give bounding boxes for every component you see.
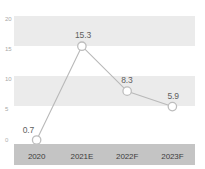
data-label-2023f: 5.9 bbox=[167, 92, 179, 101]
data-point-marker bbox=[32, 136, 40, 144]
x-axis-tick-2023f: 2023F bbox=[150, 152, 195, 161]
data-point-marker bbox=[78, 42, 86, 50]
x-axis-tick-2022f: 2022F bbox=[105, 152, 150, 161]
x-axis-tick-2020: 2020 bbox=[14, 152, 59, 161]
plot-area: 20 15 10 5 0 0.7 15.3 8.3 5.9 2020 2021E… bbox=[0, 0, 205, 169]
data-label-2022f: 8.3 bbox=[121, 76, 133, 85]
series-line bbox=[37, 46, 173, 140]
data-point-marker bbox=[168, 102, 176, 110]
line-chart: 20 15 10 5 0 0.7 15.3 8.3 5.9 2020 2021E… bbox=[0, 0, 205, 169]
x-axis-tick-2021e: 2021E bbox=[59, 152, 104, 161]
data-label-2020: 0.7 bbox=[23, 126, 35, 135]
series-markers bbox=[32, 42, 176, 144]
data-label-2021e: 15.3 bbox=[75, 31, 91, 40]
data-point-marker bbox=[123, 87, 131, 95]
